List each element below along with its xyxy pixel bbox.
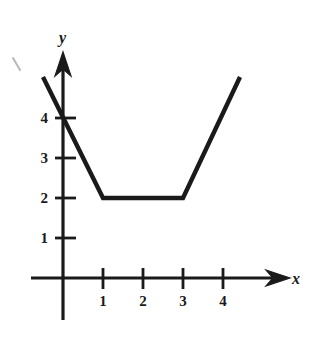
x-tick-label-3: 3	[175, 294, 191, 309]
y-axis-label: y	[59, 30, 66, 46]
stray-scan-mark	[13, 58, 20, 70]
x-tick-label-2: 2	[135, 294, 151, 309]
function-curve	[43, 77, 240, 198]
x-axis-label: x	[292, 271, 300, 287]
y-tick-label-2: 2	[34, 191, 48, 206]
y-tick-label-3: 3	[34, 151, 48, 166]
graph-figure: y x 1 2 3 4 1 2 3 4	[0, 0, 322, 337]
x-tick-label-1: 1	[95, 294, 111, 309]
x-tick-label-4: 4	[215, 294, 231, 309]
y-tick-label-4: 4	[34, 111, 48, 126]
y-tick-label-1: 1	[34, 231, 48, 246]
coordinate-plot	[0, 0, 322, 337]
